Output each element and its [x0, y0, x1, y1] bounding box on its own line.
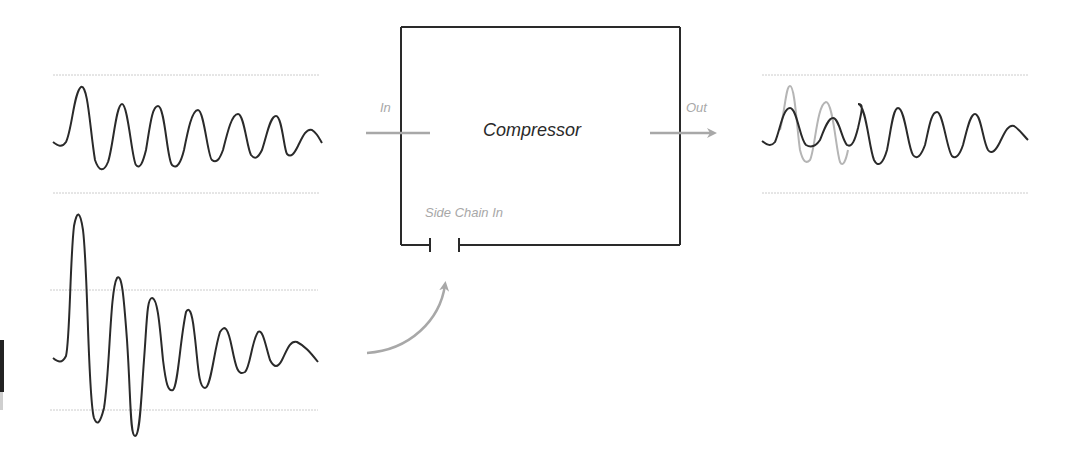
in-port-label: In [380, 100, 391, 115]
compressor-label: Compressor [483, 120, 581, 141]
sidechain-arrow [367, 285, 445, 353]
left-edge-bar-light [0, 392, 3, 410]
sidechain-in-label: Side Chain In [425, 205, 503, 220]
input-signal-waveform [53, 87, 322, 169]
left-edge-bar [0, 340, 4, 392]
out-port-label: Out [686, 100, 707, 115]
compressor-diagram [0, 0, 1076, 456]
sidechain-signal-waveform [53, 214, 318, 436]
